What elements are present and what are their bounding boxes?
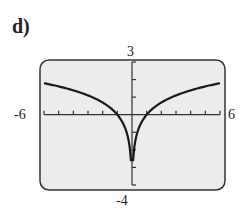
calculator-screen — [0, 0, 250, 212]
